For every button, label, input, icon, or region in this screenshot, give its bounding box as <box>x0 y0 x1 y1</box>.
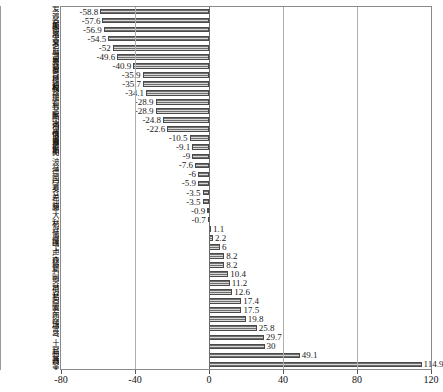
bar <box>209 253 224 259</box>
bar <box>198 181 209 187</box>
bar-row: -35.9 <box>61 70 431 79</box>
bar <box>209 325 257 331</box>
x-tick-label: 120 <box>424 374 439 385</box>
bar-row: 30 <box>61 342 431 351</box>
bar <box>195 163 209 169</box>
x-tick-label: -40 <box>128 374 141 385</box>
bar-row: -0.7 <box>61 215 431 224</box>
bar <box>192 144 209 150</box>
bar-row: -10.5 <box>61 134 431 143</box>
gridline--40 <box>135 7 136 369</box>
bar <box>156 99 209 105</box>
bar <box>104 27 209 33</box>
bar-row: -57.6 <box>61 16 431 25</box>
bar-row: -58.8 <box>61 7 431 16</box>
bar <box>209 262 224 268</box>
bar <box>163 117 209 123</box>
bar <box>209 298 241 304</box>
bar <box>209 271 228 277</box>
bar-row: -54.5 <box>61 34 431 43</box>
bar-row: 25.8 <box>61 324 431 333</box>
bar-row: -52 <box>61 43 431 52</box>
bar-row: 114.9 <box>61 360 431 369</box>
bar-value-label: 30 <box>267 342 276 351</box>
bar <box>146 90 209 96</box>
category-label: 冰岛 <box>50 321 58 337</box>
bar-row: -0.9 <box>61 206 431 215</box>
bar <box>209 289 232 295</box>
bar-row: -56.9 <box>61 25 431 34</box>
bar <box>209 280 230 286</box>
bar-row: -28.9 <box>61 98 431 107</box>
bar-row: -35.7 <box>61 79 431 88</box>
bar <box>209 362 422 368</box>
bar <box>156 108 209 114</box>
bar-value-label: -0.7 <box>191 215 205 224</box>
bar-row: 17.5 <box>61 306 431 315</box>
bar <box>133 63 209 69</box>
bar-row: 1.1 <box>61 224 431 233</box>
bar-value-label: 49.1 <box>302 351 318 360</box>
bar-row: 2.2 <box>61 233 431 242</box>
gridline-80 <box>357 7 358 369</box>
bar-row: -34.1 <box>61 88 431 97</box>
bar-row: -24.8 <box>61 116 431 125</box>
bar-row: -9 <box>61 152 431 161</box>
bar <box>198 172 209 178</box>
zero-line <box>209 7 210 369</box>
bar <box>209 316 246 322</box>
category-label: 捷克 <box>50 140 58 156</box>
bar-row: 29.7 <box>61 333 431 342</box>
bar <box>102 18 209 24</box>
bar-rows: -58.8-57.6-56.9-54.5-52-49.6-40.9-35.9-3… <box>61 7 431 369</box>
bar <box>209 335 264 341</box>
bar <box>108 36 209 42</box>
bar <box>209 307 241 313</box>
x-axis: -80-4004080120 <box>60 370 432 390</box>
bar <box>209 244 220 250</box>
x-tick-label: 40 <box>278 374 288 385</box>
bar <box>117 54 209 60</box>
bar <box>100 9 209 15</box>
category-labels: 爱沙尼亚亚美尼亚斯洛文尼亚罗马尼亚乌克兰克罗地亚匈牙利拉脱维亚保加利亚立陶宛斯洛… <box>0 6 59 370</box>
bar-row: 8.2 <box>61 251 431 260</box>
bar-row: 19.8 <box>61 315 431 324</box>
x-tick-label: 80 <box>352 374 362 385</box>
bar-row: -3.5 <box>61 188 431 197</box>
category-label: 澳大利亚 <box>50 357 58 370</box>
bar <box>203 199 209 205</box>
bar-row: -40.9 <box>61 61 431 70</box>
bar-value-label: 114.9 <box>424 360 443 369</box>
bar-row: -28.9 <box>61 107 431 116</box>
bar-row: -7.6 <box>61 161 431 170</box>
x-tick-label: 0 <box>207 374 212 385</box>
bar-row: 49.1 <box>61 351 431 360</box>
x-tick-label: -80 <box>54 374 67 385</box>
bar <box>167 126 209 132</box>
bar-value-label: -22.6 <box>146 125 165 134</box>
gridline-40 <box>283 7 284 369</box>
bar <box>209 353 300 359</box>
bar-row: -22.6 <box>61 125 431 134</box>
bar <box>203 190 209 196</box>
bar <box>143 81 209 87</box>
bar-row: 6 <box>61 242 431 251</box>
bar-row: -9.1 <box>61 143 431 152</box>
bar <box>209 344 265 350</box>
plot-area: -58.8-57.6-56.9-54.5-52-49.6-40.9-35.9-3… <box>60 6 432 370</box>
bar <box>192 154 209 160</box>
bar <box>143 72 209 78</box>
bar <box>113 45 209 51</box>
bar-row: -6 <box>61 170 431 179</box>
bar <box>190 135 209 141</box>
bar-row: -3.5 <box>61 197 431 206</box>
bar-row: -5.9 <box>61 179 431 188</box>
